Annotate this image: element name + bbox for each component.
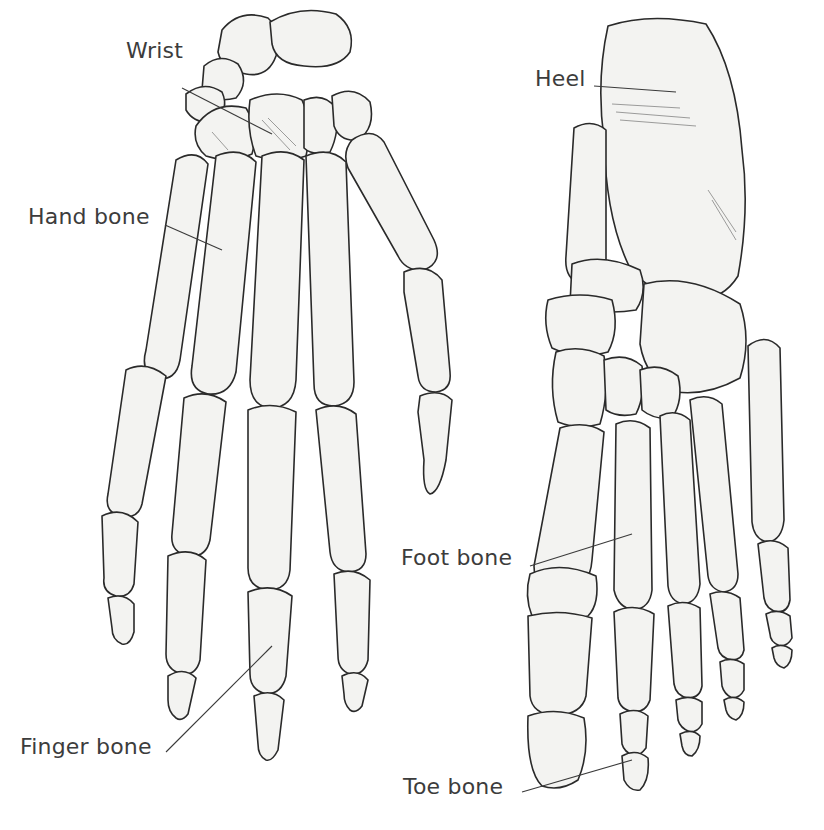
heel-bone xyxy=(601,18,745,300)
label-finger-bone: Finger bone xyxy=(20,734,152,759)
little-toe-bones xyxy=(748,339,792,668)
hand-skeleton xyxy=(102,10,452,760)
carpal-bones xyxy=(186,10,372,160)
label-foot-bone: Foot bone xyxy=(401,545,512,570)
label-wrist: Wrist xyxy=(126,38,183,63)
second-toe-bones xyxy=(614,421,654,790)
third-toe-bones xyxy=(660,413,702,756)
thumb-bones xyxy=(346,133,452,494)
middle-finger-bones xyxy=(248,152,304,760)
foot-skeleton xyxy=(527,18,792,790)
label-heel: Heel xyxy=(535,66,586,91)
index-finger-bones xyxy=(306,152,370,711)
label-hand-bone: Hand bone xyxy=(28,204,150,229)
big-toe-bones xyxy=(527,425,604,788)
label-toe-bone: Toe bone xyxy=(403,774,503,799)
anatomy-illustration xyxy=(0,0,824,830)
